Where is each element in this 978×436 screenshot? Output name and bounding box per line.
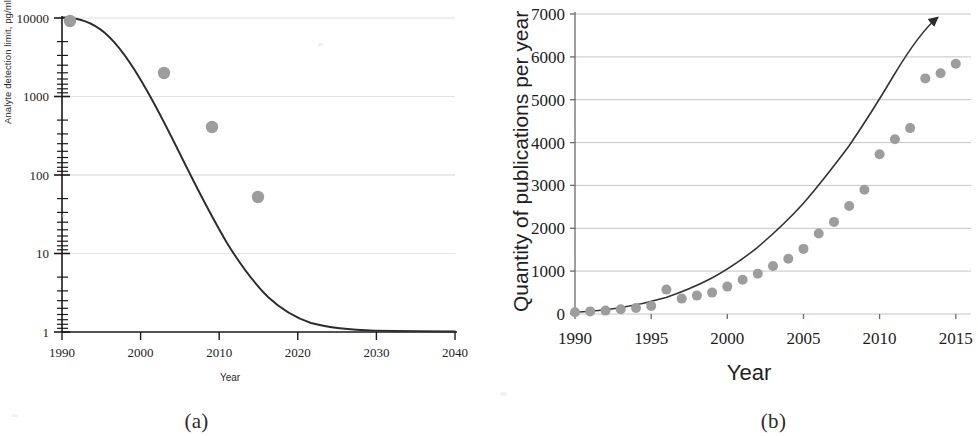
chart-b-y-ticks [570, 14, 575, 314]
chart-b-point-2009 [859, 185, 869, 195]
chart-a-x-tick-labels: 1990 2000 2010 2020 2030 2040 [49, 345, 468, 360]
chart-b-point-2008 [844, 201, 854, 211]
chart-b-xtick-2005: 2005 [787, 329, 821, 348]
chart-b-data-points [570, 59, 961, 318]
chart-b-point-2011 [890, 134, 900, 144]
chart-a-point-1991 [64, 15, 76, 27]
chart-panel-b: 7000 6000 5000 4000 3000 2000 1000 0 199… [489, 0, 978, 436]
chart-b-xtick-2010: 2010 [863, 329, 897, 348]
panel-a-caption: (a) [0, 409, 441, 434]
chart-a-xtick-2030: 2030 [363, 345, 389, 360]
chart-b-point-2005 [799, 244, 809, 254]
chart-a-xtick-1990: 1990 [49, 345, 75, 360]
chart-b-point-2000 [722, 282, 732, 292]
chart-a-ytick-10000: 10000 [17, 11, 50, 26]
chart-a-xtick-2010: 2010 [206, 345, 232, 360]
chart-b-point-2012 [905, 123, 915, 133]
chart-a-xtick-2000: 2000 [128, 345, 154, 360]
chart-b-plot: 7000 6000 5000 4000 3000 2000 1000 0 199… [489, 0, 978, 400]
chart-a-point-2002 [158, 67, 170, 79]
chart-b-point-2010 [875, 149, 885, 159]
chart-a-x-ticks [62, 332, 455, 340]
chart-b-point-1998 [692, 291, 702, 301]
chart-b-x-tick-labels: 1990 1995 2000 2005 2010 2015 [558, 329, 973, 348]
chart-b-point-2007 [829, 217, 839, 227]
chart-a-xtick-2040: 2040 [442, 345, 468, 360]
chart-b-ytick-7000: 7000 [531, 5, 565, 24]
chart-b-ytick-2000: 2000 [531, 219, 565, 238]
chart-b-ytick-4000: 4000 [531, 134, 565, 153]
chart-b-ytick-0: 0 [557, 305, 566, 324]
figure-container: 10000 1000 100 10 1 1990 2000 2010 2020 … [0, 0, 978, 436]
chart-a-plot: 10000 1000 100 10 1 1990 2000 2010 2020 … [0, 0, 489, 400]
chart-a-y-tick-labels: 10000 1000 100 10 1 [17, 11, 50, 340]
chart-b-point-1997 [677, 294, 687, 304]
chart-a-ytick-100: 100 [30, 168, 50, 183]
chart-b-y-axis-title: Quantity of publications per year [509, 12, 533, 312]
chart-b-y-tick-labels: 7000 6000 5000 4000 3000 2000 1000 0 [531, 5, 565, 324]
chart-b-point-1996 [661, 285, 671, 295]
chart-panel-a: 10000 1000 100 10 1 1990 2000 2010 2020 … [0, 0, 489, 436]
chart-a-xtick-2020: 2020 [285, 345, 311, 360]
chart-b-point-1994 [631, 303, 641, 313]
chart-a-ytick-1: 1 [43, 325, 50, 340]
chart-b-point-1992 [601, 306, 611, 316]
chart-b-ytick-3000: 3000 [531, 176, 565, 195]
chart-b-point-2001 [738, 275, 748, 285]
chart-b-trend-curve [575, 18, 937, 312]
chart-b-point-2015 [951, 59, 961, 69]
chart-a-ytick-10: 10 [36, 246, 49, 261]
chart-b-x-axis-title: Year [549, 360, 949, 386]
chart-b-xtick-2000: 2000 [710, 329, 744, 348]
chart-a-y-axis-title: Analyte detection limit, pg/ml [2, 0, 13, 124]
chart-a-x-axis-title: Year [0, 372, 460, 383]
chart-a-ytick-1000: 1000 [23, 89, 49, 104]
chart-b-point-2002 [753, 269, 763, 279]
chart-b-point-1991 [585, 306, 595, 316]
chart-b-xtick-2015: 2015 [939, 329, 973, 348]
chart-b-point-2013 [920, 73, 930, 83]
chart-b-point-1993 [616, 304, 626, 314]
chart-b-ytick-1000: 1000 [531, 262, 565, 281]
chart-b-point-2004 [783, 254, 793, 264]
chart-a-gridlines [62, 18, 455, 254]
panel-b-caption: (b) [529, 409, 978, 434]
chart-b-xtick-1990: 1990 [558, 329, 592, 348]
chart-b-point-2014 [936, 68, 946, 78]
chart-b-point-1995 [646, 301, 656, 311]
chart-a-point-2008 [206, 121, 218, 133]
chart-b-ytick-5000: 5000 [531, 91, 565, 110]
chart-b-point-2003 [768, 261, 778, 271]
chart-b-point-1990 [570, 307, 580, 317]
chart-b-point-1999 [707, 288, 717, 298]
chart-b-ytick-6000: 6000 [531, 48, 565, 67]
chart-b-xtick-1995: 1995 [634, 329, 668, 348]
chart-a-point-2014 [252, 191, 264, 203]
chart-b-x-ticks [575, 314, 956, 319]
chart-b-point-2006 [814, 229, 824, 239]
